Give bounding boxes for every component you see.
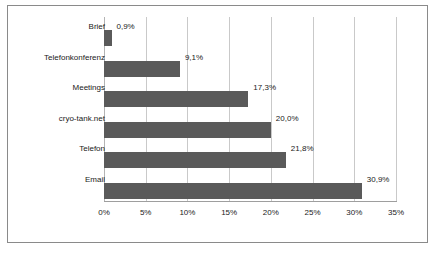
bar-brief [104,30,112,46]
bar-cryo-tank-net [104,122,271,138]
chart-frame: 0%5%10%15%20%25%30%35% BriefTelefonkonfe… [7,5,428,243]
category-label: Brief [13,19,105,35]
x-tick-label: 10% [179,208,195,217]
category-label: Telefon [13,141,105,157]
bar-telefonkonferenz [104,61,180,77]
bar-telefon [104,152,286,168]
bar-value-label: 20,0% [276,111,299,127]
x-tick-label: 25% [305,208,321,217]
gridline-25pct [313,17,314,201]
x-tick-label: 20% [263,208,279,217]
gridline-5pct [146,17,147,201]
bar-value-label: 9,1% [185,50,203,66]
x-tick-label: 5% [140,208,152,217]
x-tick-label: 0% [98,208,110,217]
bar-value-label: 30,9% [367,172,390,188]
bar-value-label: 0,9% [117,19,135,35]
gridline-15pct [229,17,230,201]
gridline-35pct [396,17,397,201]
bar-value-label: 17,3% [253,80,276,96]
bar-meetings [104,91,248,107]
x-tick-label: 30% [346,208,362,217]
gridline-10pct [187,17,188,201]
bar-value-label: 21,8% [291,141,314,157]
category-label: Email [13,172,105,188]
x-tick-label: 35% [388,208,404,217]
category-label: Telefonkonferenz [13,50,105,66]
plot-area [104,17,396,201]
gridline-30pct [354,17,355,201]
plot-bottom-axis [104,201,397,202]
category-label: Meetings [13,80,105,96]
x-tick-label: 15% [221,208,237,217]
category-label: cryo-tank.net [13,111,105,127]
bar-email [104,183,362,199]
gridline-20pct [271,17,272,201]
